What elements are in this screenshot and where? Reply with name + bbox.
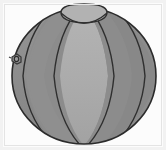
image-canvas: A grayscale inflatable beach ball with s… [0, 0, 166, 150]
ball-body-group [12, 6, 156, 146]
air-valve-stem [9, 57, 11, 58]
air-valve-hole [14, 56, 18, 61]
beach-ball-illustration: A grayscale inflatable beach ball with s… [0, 0, 166, 150]
top-cap [61, 4, 107, 23]
top-cap-group [61, 4, 107, 23]
air-valve-group [9, 54, 21, 64]
